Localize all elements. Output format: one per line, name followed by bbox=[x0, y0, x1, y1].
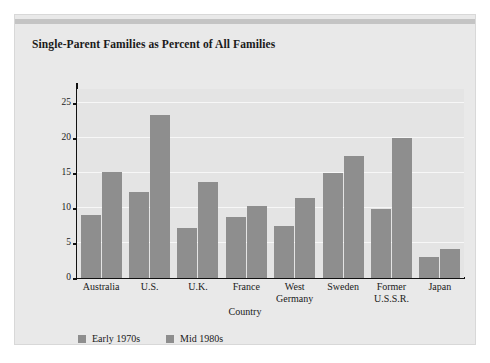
chart-title: Single-Parent Families as Percent of All… bbox=[32, 38, 275, 50]
panel-top-band bbox=[15, 19, 475, 24]
legend-swatch-icon-0 bbox=[78, 335, 86, 343]
legend-label-1: Mid 1980s bbox=[180, 333, 223, 344]
bar-west-germany-1 bbox=[295, 198, 315, 278]
legend-label-0: Early 1970s bbox=[92, 333, 140, 344]
bar-west-germany-0 bbox=[274, 226, 294, 279]
legend-item-0[interactable]: Early 1970s bbox=[78, 333, 140, 344]
bar-former-u.s.s.r.-0 bbox=[371, 209, 391, 278]
y-tick-label-5: 5 bbox=[49, 237, 71, 247]
legend-item-1[interactable]: Mid 1980s bbox=[166, 333, 223, 344]
bar-france-0 bbox=[226, 217, 246, 278]
y-tick-mark-0 bbox=[73, 278, 77, 280]
bar-japan-1 bbox=[440, 249, 460, 278]
legend-swatch-icon-1 bbox=[166, 335, 174, 343]
bar-u.s.-0 bbox=[129, 192, 149, 278]
y-tick-mark-5 bbox=[73, 243, 77, 245]
y-tick-mark-10 bbox=[73, 208, 77, 210]
plot-area bbox=[77, 89, 464, 278]
y-tick-label-15: 15 bbox=[49, 167, 71, 177]
x-axis-label: Country bbox=[15, 306, 475, 317]
chart-panel: Single-Parent Families as Percent of All… bbox=[14, 14, 476, 345]
y-tick-label-20: 20 bbox=[49, 132, 71, 142]
bar-sweden-1 bbox=[344, 156, 364, 278]
y-tick-mark-25 bbox=[73, 103, 77, 105]
gridline-25 bbox=[77, 102, 464, 104]
bar-japan-0 bbox=[419, 257, 439, 278]
bar-australia-0 bbox=[81, 215, 101, 278]
bar-france-1 bbox=[247, 206, 267, 278]
chart-page: Single-Parent Families as Percent of All… bbox=[0, 0, 490, 363]
bar-australia-1 bbox=[102, 172, 122, 278]
bar-u.s.-1 bbox=[150, 115, 170, 278]
y-tick-label-10: 10 bbox=[49, 202, 71, 212]
chart-legend: Early 1970sMid 1980s bbox=[78, 333, 223, 344]
bar-u.k.-1 bbox=[198, 182, 218, 278]
bar-u.k.-0 bbox=[177, 228, 197, 278]
bar-former-u.s.s.r.-1 bbox=[392, 138, 412, 278]
y-tick-mark-15 bbox=[73, 173, 77, 175]
bar-sweden-0 bbox=[323, 173, 343, 278]
y-tick-mark-20 bbox=[73, 138, 77, 140]
y-tick-label-25: 25 bbox=[49, 97, 71, 107]
category-label-japan: Japan bbox=[402, 281, 478, 293]
